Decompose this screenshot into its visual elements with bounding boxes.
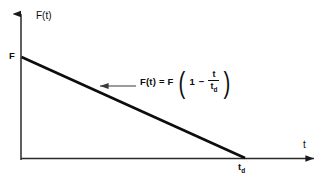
y-axis-label: F(t): [36, 11, 52, 21]
equation-lhs: F(t) = F: [140, 76, 174, 87]
fraction-denominator: td: [208, 81, 219, 93]
equation-annotation: F(t) = F ( 1 − t td ): [140, 70, 232, 93]
x-tick-label-td-subscript: d: [241, 167, 245, 174]
y-intercept-label: F: [9, 51, 15, 61]
plot-svg: [0, 0, 330, 189]
equation-minus: −: [199, 76, 205, 87]
x-axis-label: t: [303, 140, 306, 150]
fraction-numerator: t: [210, 70, 217, 80]
equation-one: 1: [190, 76, 195, 87]
fraction-denominator-subscript: d: [213, 86, 217, 93]
equation-fraction: t td: [208, 70, 219, 93]
figure-container: F(t) t F td F(t) = F ( 1 − t td ): [0, 0, 330, 189]
x-tick-label-td: td: [238, 162, 245, 174]
equation-group: 1 − t td: [190, 70, 220, 93]
